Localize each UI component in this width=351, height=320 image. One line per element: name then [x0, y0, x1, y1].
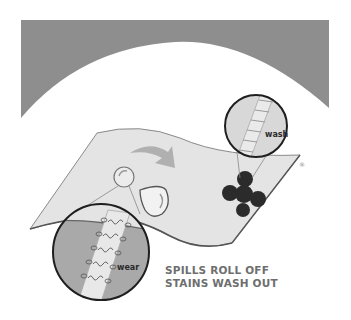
wear-label: wear [117, 263, 139, 272]
small-droplet-icon [114, 167, 134, 187]
caption-line-2: STAINS WASH OUT [165, 277, 305, 290]
registered-mark-icon: ® [299, 161, 305, 168]
background-band [21, 20, 329, 118]
caption: SPILLS ROLL OFF STAINS WASH OUT [165, 264, 305, 290]
wash-label: wash [265, 130, 288, 139]
caption-line-1: SPILLS ROLL OFF [165, 264, 305, 277]
